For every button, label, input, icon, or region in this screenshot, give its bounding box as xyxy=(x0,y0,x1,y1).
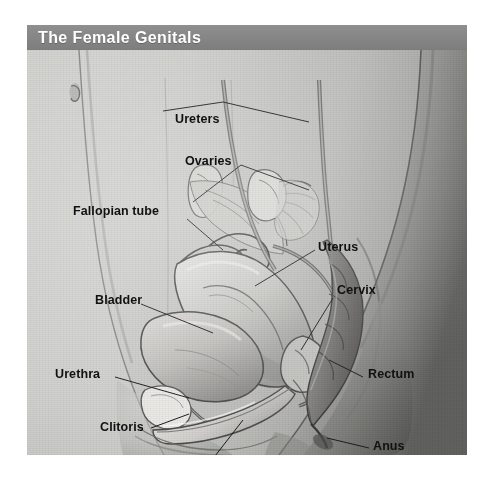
label-ovaries: Ovaries xyxy=(185,155,232,168)
label-bladder: Bladder xyxy=(95,294,142,307)
anatomy-drawing xyxy=(27,50,467,455)
label-cervix: Cervix xyxy=(337,284,376,297)
label-rectum: Rectum xyxy=(368,368,414,381)
figure-title-bar: The Female Genitals xyxy=(27,25,467,50)
label-clitoris: Clitoris xyxy=(100,421,144,434)
label-fallopian-tube: Fallopian tube xyxy=(73,205,159,218)
figure-title: The Female Genitals xyxy=(38,28,201,47)
label-urethra: Urethra xyxy=(55,368,100,381)
anatomy-illustration: Ureters Ovaries Fallopian tube Uterus Ce… xyxy=(27,50,467,455)
figure-panel: The Female Genitals xyxy=(27,25,467,455)
label-ureters: Ureters xyxy=(175,113,219,126)
label-uterus: Uterus xyxy=(318,241,358,254)
label-anus: Anus xyxy=(373,440,405,453)
